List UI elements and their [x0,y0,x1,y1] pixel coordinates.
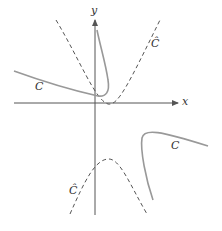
c-upper-branch [14,30,109,96]
chat-lower-label: Ĉ [69,185,77,196]
x-axis-label: x [182,96,188,107]
diagram-canvas: y x C C Ĉ Ĉ [0,0,222,231]
c-lower-label: C [171,140,179,151]
diagram-svg [0,0,222,231]
c-upper-label: C [35,81,43,92]
chat-lower-branch [70,159,147,214]
y-axis-label: y [91,5,97,16]
chat-upper-label: Ĉ [151,38,159,49]
